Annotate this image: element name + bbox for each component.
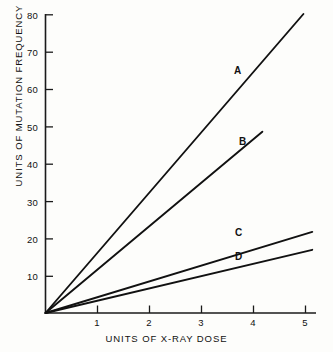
x-tick-label-5: 5 — [302, 317, 307, 328]
series-label-b: B — [239, 136, 247, 147]
y-tick-label-10: 10 — [14, 271, 38, 282]
x-tick-label-4: 4 — [250, 317, 255, 328]
y-axis-ticks — [46, 15, 54, 277]
series-line-b — [46, 132, 263, 313]
y-axis-title: UNITS OF MUTATION FREQUENCY — [13, 0, 24, 211]
mutation-frequency-chart: 80 70 60 50 40 30 20 10 1 2 3 4 5 A B C … — [0, 0, 333, 352]
x-axis-ticks — [98, 306, 306, 314]
y-tick-label-20: 20 — [14, 234, 38, 245]
x-tick-label-1: 1 — [94, 317, 99, 328]
series-label-d: D — [235, 251, 243, 262]
x-tick-label-2: 2 — [146, 317, 151, 328]
series-line-c — [46, 232, 313, 313]
axis-lines — [45, 14, 316, 314]
series-line-a — [46, 14, 304, 313]
data-series-lines — [46, 14, 313, 313]
series-line-d — [46, 250, 313, 313]
x-tick-label-3: 3 — [198, 317, 203, 328]
plot-canvas — [0, 0, 333, 352]
series-label-a: A — [234, 65, 242, 76]
series-label-c: C — [235, 227, 243, 238]
x-axis-title: UNITS OF X-RAY DOSE — [0, 333, 333, 344]
